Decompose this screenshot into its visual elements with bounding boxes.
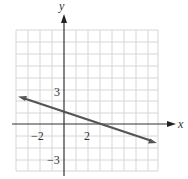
y-tick-label-3: 3 xyxy=(54,85,60,99)
coordinate-graph: x y −2 2 3 −3 xyxy=(0,0,188,179)
grid xyxy=(16,30,158,171)
y-axis-arrow-icon xyxy=(61,14,67,23)
x-tick-label-2: 2 xyxy=(84,129,90,143)
x-axis-label: x xyxy=(177,117,184,131)
y-axis-label: y xyxy=(58,0,65,13)
x-axis-arrow-icon xyxy=(167,121,176,127)
y-tick-label-neg3: −3 xyxy=(47,153,60,167)
x-tick-label-neg2: −2 xyxy=(31,129,44,143)
line-arrow-left-icon xyxy=(18,96,27,101)
y-axis xyxy=(61,14,67,176)
